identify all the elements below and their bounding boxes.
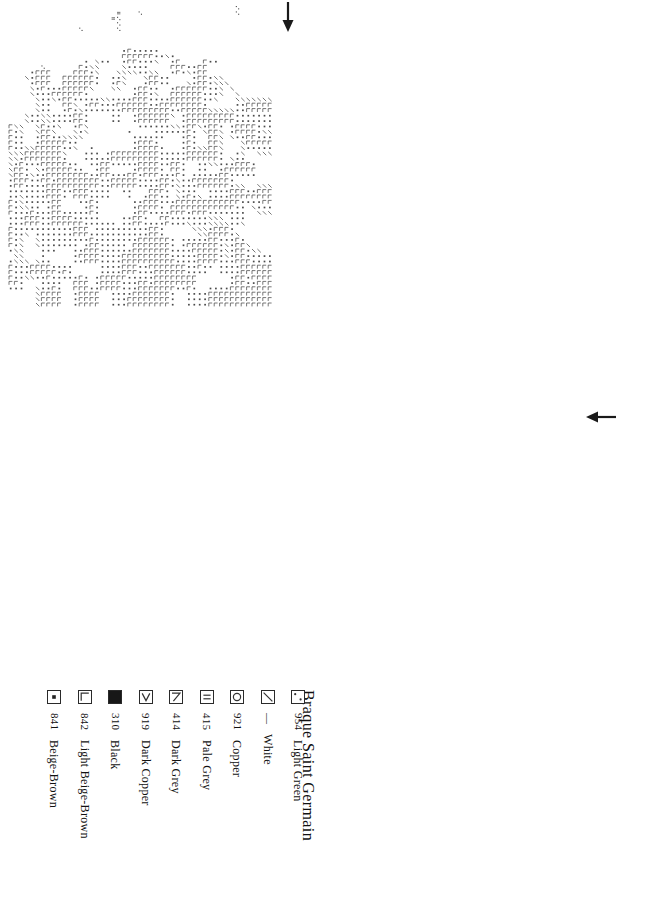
legend-thread-code: 415 bbox=[201, 713, 212, 730]
legend-color-name: Beige-Brown bbox=[48, 740, 60, 808]
legend-thread-code: 414 bbox=[171, 713, 182, 730]
legend-entry: 921Copper bbox=[222, 690, 252, 911]
legend-symbol-backslash-icon bbox=[261, 690, 275, 704]
legend-symbol-corner-l-icon bbox=[78, 690, 92, 704]
legend-symbol-vee-icon bbox=[139, 690, 153, 704]
legend-color-name: Dark Copper bbox=[140, 740, 152, 806]
color-key-legend: Braque Saint Germain 954Light Green—Whit… bbox=[0, 676, 340, 911]
legend-thread-code: 310 bbox=[110, 713, 121, 730]
legend-entry: 842Light Beige-Brown bbox=[70, 690, 100, 911]
legend-entry: 414Dark Grey bbox=[161, 690, 191, 911]
legend-color-name: Pale Grey bbox=[201, 740, 213, 790]
legend-entry: 415Pale Grey bbox=[192, 690, 222, 911]
legend-entry: 919Dark Copper bbox=[131, 690, 161, 911]
legend-symbol-filled-square-icon bbox=[108, 690, 122, 704]
legend-thread-code: 921 bbox=[232, 713, 243, 730]
legend-entry: 310Black bbox=[100, 690, 130, 911]
legend-symbol-seven-icon bbox=[169, 690, 183, 704]
legend-entry: 954Light Green bbox=[283, 690, 313, 911]
legend-symbol-circle-icon bbox=[230, 690, 244, 704]
legend-thread-code: 841 bbox=[49, 713, 60, 730]
legend-color-name: Light Green bbox=[292, 740, 304, 802]
top-center-arrow-icon bbox=[279, 2, 297, 32]
legend-thread-code: 954 bbox=[293, 713, 304, 730]
pattern-page: Braque Saint Germain 954Light Green—Whit… bbox=[0, 0, 654, 911]
legend-symbol-double-bar-icon bbox=[200, 690, 214, 704]
legend-color-name: Light Beige-Brown bbox=[79, 740, 91, 839]
legend-entry: 841Beige-Brown bbox=[39, 690, 69, 911]
legend-symbol-two-dots-icon bbox=[291, 690, 305, 704]
legend-entry: —White bbox=[253, 690, 283, 911]
legend-color-name: Copper bbox=[231, 740, 243, 777]
right-center-arrow-icon bbox=[586, 408, 616, 426]
legend-thread-code: 919 bbox=[140, 713, 151, 730]
legend-color-name: Dark Grey bbox=[170, 740, 182, 794]
legend-color-name: Black bbox=[109, 740, 121, 770]
legend-color-name: White bbox=[262, 734, 274, 765]
legend-symbol-center-dot-icon bbox=[47, 690, 61, 704]
legend-thread-code: 842 bbox=[79, 713, 90, 730]
legend-thread-code: — bbox=[262, 713, 273, 724]
